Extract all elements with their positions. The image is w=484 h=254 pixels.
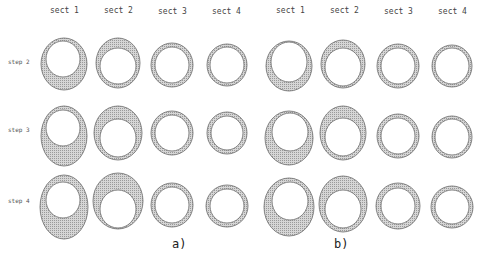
- figure: sect 1 sect 2 sect 3 sect 4 sect 1 sect …: [0, 0, 484, 254]
- row-label-step-2: step 2: [8, 58, 30, 66]
- col-header-a-3: sect 3: [158, 7, 187, 16]
- caption-a: a): [172, 237, 186, 251]
- col-header-b-2: sect 2: [330, 6, 359, 15]
- col-header-b-4: sect 4: [438, 7, 467, 16]
- col-header-b-1: sect 1: [276, 6, 305, 15]
- col-header-a-1: sect 1: [50, 6, 79, 15]
- col-header-a-4: sect 4: [212, 7, 241, 16]
- caption-b: b): [334, 237, 348, 251]
- row-label-step-3: step 3: [8, 126, 30, 134]
- col-header-b-3: sect 3: [384, 7, 413, 16]
- col-header-a-2: sect 2: [104, 6, 133, 15]
- row-label-step-4: step 4: [8, 197, 30, 205]
